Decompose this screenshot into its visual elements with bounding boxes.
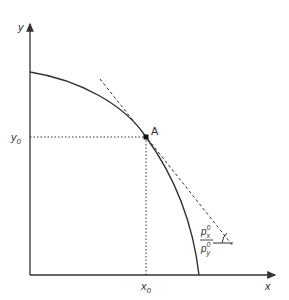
point-a-marker <box>144 135 149 140</box>
svg-text:p0x: p0x <box>200 224 211 239</box>
price-ratio-label: p0x p0y <box>200 224 213 257</box>
y-axis-label: y <box>17 21 25 33</box>
x0-label: x0 <box>140 280 152 295</box>
ppf-diagram: y x A y0 x0 p0x p0y <box>0 0 289 300</box>
svg-text:p0y: p0y <box>200 241 211 257</box>
angle-arc <box>222 233 227 243</box>
y0-label: y0 <box>10 131 22 146</box>
frontier-curve <box>30 72 199 275</box>
point-a-label: A <box>151 125 159 137</box>
tangent-line <box>100 79 233 246</box>
x-axis-label: x <box>264 280 271 292</box>
